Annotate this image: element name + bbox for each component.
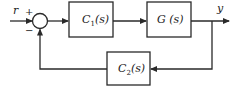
block-c1: C1(s) [69,2,113,37]
block-diagram: r + − C1(s) G (s) y C2(s) [0,0,235,90]
input-label: r [13,4,19,17]
output-label: y [216,2,224,15]
minus-sign: − [25,25,33,36]
summing-junction [33,14,48,29]
plus-sign: + [25,6,33,17]
block-c2: C2(s) [107,52,150,85]
block-g-label: G (s) [157,13,184,26]
block-c2-label: C2(s) [118,62,145,77]
block-c1-label: C1(s) [82,13,109,28]
input-signal: r + − [10,4,33,36]
block-g: G (s) [147,2,191,37]
